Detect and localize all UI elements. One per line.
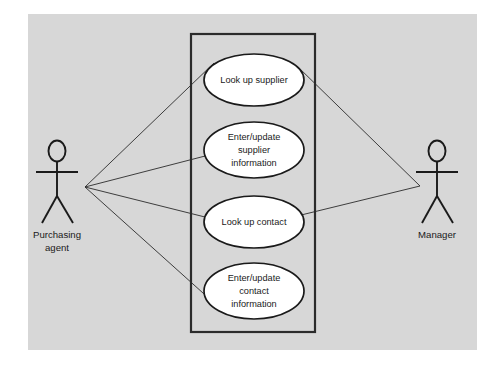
use-case-label-line1: Look up contact <box>222 217 287 227</box>
use-case-label-line1: Look up supplier <box>220 75 287 85</box>
diagram-vector-layer: Look up supplier Enter/update supplier i… <box>0 0 495 365</box>
actor-head-icon <box>429 141 446 162</box>
use-case-label-line3: information <box>231 299 276 309</box>
use-case-label-line2: supplier <box>238 145 270 155</box>
actor-label-line2: agent <box>45 242 69 253</box>
use-case-look-up-supplier[interactable]: Look up supplier <box>204 54 304 106</box>
association-purchasing-agent-look-up-supplier <box>85 63 214 187</box>
actor-manager[interactable]: Manager <box>416 141 458 240</box>
actor-purchasing-agent[interactable]: Purchasing agent <box>33 141 81 253</box>
use-case-look-up-contact[interactable]: Look up contact <box>204 196 304 248</box>
use-case-label-line2: contact <box>239 286 269 296</box>
use-case-label-line3: information <box>231 158 276 168</box>
use-case-label-line1: Enter/update <box>228 273 281 283</box>
actor-right-leg-icon <box>437 196 453 223</box>
actor-label-line1: Manager <box>418 229 457 240</box>
association-purchasing-agent-enter-update-contact-information <box>85 187 213 302</box>
actor-head-icon <box>49 141 66 162</box>
actor-left-leg-icon <box>42 196 57 223</box>
use-case-label-line1: Enter/update <box>228 132 281 142</box>
actor-label-line1: Purchasing <box>33 229 81 240</box>
actor-left-leg-icon <box>422 196 437 223</box>
use-case-enter-update-supplier-information[interactable]: Enter/update supplier information <box>204 122 304 178</box>
use-case-enter-update-contact-information[interactable]: Enter/update contact information <box>204 263 304 319</box>
actor-right-leg-icon <box>57 196 73 223</box>
use-case-diagram: Look up supplier Enter/update supplier i… <box>0 0 495 365</box>
